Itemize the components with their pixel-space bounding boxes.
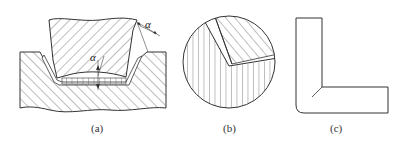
alpha-label-top: α	[145, 18, 151, 30]
bend-line	[312, 87, 322, 97]
bent-part-outline	[296, 18, 388, 113]
panel-a: α α (a)	[20, 18, 166, 135]
caption-a: (a)	[91, 122, 104, 135]
caption-c: (c)	[330, 122, 343, 135]
panel-c: (c)	[296, 18, 388, 135]
punch-body	[49, 18, 137, 78]
caption-b: (b)	[223, 122, 236, 135]
panel-b: (b)	[180, 10, 280, 135]
figure-canvas: α α (a) (b) (c)	[0, 0, 404, 153]
sheet-bottom-hatch	[62, 78, 126, 84]
alpha-label-bottom: α	[90, 51, 96, 63]
